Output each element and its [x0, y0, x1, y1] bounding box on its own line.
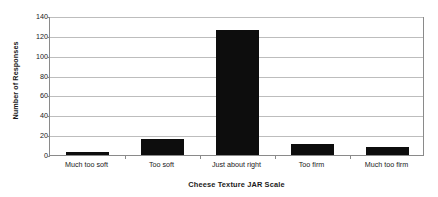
x-tick-mark: [200, 155, 201, 159]
y-tick-mark: [47, 156, 50, 157]
y-tick-label: 100: [26, 53, 48, 61]
x-tick-label: Too soft: [124, 160, 199, 169]
x-axis-title: Cheese Texture JAR Scale: [49, 180, 424, 189]
x-tick-label: Just about right: [199, 160, 274, 169]
bars-layer: [50, 17, 423, 155]
bar: [66, 152, 109, 155]
y-tick-label: 60: [26, 92, 48, 100]
bar-chart-figure: Number of Responses 020406080100120140 M…: [0, 0, 438, 197]
x-axis-tick-labels: Much too softToo softJust about rightToo…: [49, 160, 424, 172]
x-tick-mark: [275, 155, 276, 159]
x-tick-mark: [125, 155, 126, 159]
bar: [366, 147, 409, 155]
y-axis-tick-labels: 020406080100120140: [26, 14, 48, 156]
x-tick-label: Much too firm: [349, 160, 424, 169]
y-tick-label: 120: [26, 33, 48, 41]
y-tick-label: 0: [26, 152, 48, 160]
y-tick-label: 40: [26, 112, 48, 120]
y-tick-label: 20: [26, 132, 48, 140]
bar: [291, 144, 334, 155]
y-tick-label: 140: [26, 13, 48, 21]
y-axis-title-text: Number of Responses: [11, 41, 20, 119]
plot-area: [49, 17, 424, 156]
bar: [141, 139, 184, 155]
bar: [216, 30, 259, 155]
x-tick-mark: [350, 155, 351, 159]
x-tick-label: Too firm: [274, 160, 349, 169]
y-tick-label: 80: [26, 73, 48, 81]
x-tick-label: Much too soft: [49, 160, 124, 169]
